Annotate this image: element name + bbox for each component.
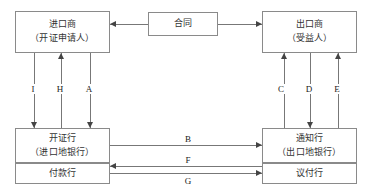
edge-G-arrowhead <box>256 170 262 176</box>
node-exporter-line1: 出口商 <box>296 18 324 32</box>
edge-contract-to-exporter-arrowhead <box>256 21 262 27</box>
node-advising-bank-line2: （出口地银行） <box>277 146 341 160</box>
node-issuing-bank-line2: （进口地银行） <box>30 146 94 160</box>
edge-B-arrowhead <box>256 142 262 148</box>
edge-H-arrowhead <box>58 53 64 59</box>
node-importer-line1: 进口商 <box>49 18 77 32</box>
edge-label-A: A <box>80 84 98 94</box>
node-advising-bank: 通知行 （出口地银行） <box>262 128 357 163</box>
node-paying-bank-line1: 付款行 <box>49 167 77 181</box>
node-negotiating-bank: 议付行 <box>262 163 357 184</box>
edge-label-H: H <box>51 84 69 94</box>
edge-contract-to-importer-arrowhead <box>110 21 116 27</box>
node-contract-line1: 合同 <box>174 17 192 31</box>
node-exporter: 出口商 （受益人） <box>262 11 357 53</box>
edge-E-arrowhead <box>335 53 341 59</box>
letter-of-credit-flow-diagram: 进口商 （开证申请人） 合同 出口商 （受益人） 开证行 （进口地银行） 付款行… <box>0 0 367 193</box>
edge-label-E: E <box>328 84 346 94</box>
edge-F-arrowhead <box>110 163 116 169</box>
edge-D-arrowhead <box>307 122 313 128</box>
node-exporter-line2: （受益人） <box>287 32 333 46</box>
edge-I-arrowhead <box>31 122 37 128</box>
edge-label-G: G <box>179 176 197 186</box>
edge-label-C: C <box>272 84 290 94</box>
edge-B-line <box>110 145 262 146</box>
edge-A-arrowhead <box>87 122 93 128</box>
edge-label-B: B <box>179 134 197 144</box>
node-importer-line2: （开证申请人） <box>30 32 94 46</box>
edge-F-line <box>110 166 262 167</box>
node-issuing-bank-line1: 开证行 <box>49 132 77 146</box>
edge-label-F: F <box>179 155 197 165</box>
node-importer: 进口商 （开证申请人） <box>15 11 110 53</box>
node-issuing-bank: 开证行 （进口地银行） <box>15 128 110 163</box>
node-advising-bank-line1: 通知行 <box>296 132 324 146</box>
edge-G-line <box>110 173 262 174</box>
edge-label-I: I <box>24 84 42 94</box>
node-contract: 合同 <box>148 12 218 36</box>
edge-C-arrowhead <box>281 53 287 59</box>
edge-label-D: D <box>300 84 318 94</box>
node-paying-bank: 付款行 <box>15 163 110 184</box>
node-negotiating-bank-line1: 议付行 <box>296 167 324 181</box>
